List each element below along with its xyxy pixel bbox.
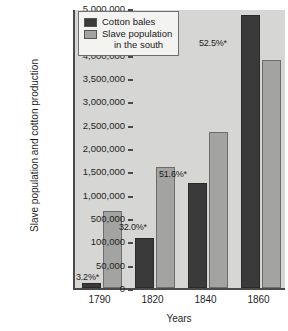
- data-label-1840: 51.6%*: [159, 169, 187, 179]
- y-axis-title: Slave population and cotton production: [29, 26, 40, 266]
- x-axis-label-1820: 1820: [126, 294, 179, 305]
- legend-label-line2: in the south: [102, 39, 172, 50]
- x-axis-title: Years: [73, 313, 285, 324]
- legend-label-slave-population: Slave population in the south: [102, 28, 172, 50]
- y-axis-tick-mark: [128, 126, 133, 128]
- y-axis-tick-label: 1,500,000: [83, 166, 125, 177]
- legend-label-cotton-bales: Cotton bales: [102, 16, 155, 27]
- y-axis-tick-mark: [128, 219, 133, 221]
- y-axis-tick-mark: [128, 196, 133, 198]
- x-axis-label-1790: 1790: [73, 294, 126, 305]
- y-axis-tick-mark: [128, 242, 133, 244]
- y-axis-tick-label: 0: [120, 283, 125, 294]
- legend: Cotton bales Slave population in the sou…: [78, 11, 179, 56]
- data-label-1790: 3.2%*: [76, 272, 99, 282]
- bar-group: [181, 10, 234, 288]
- y-axis-tick-mark: [128, 172, 133, 174]
- y-axis-tick-mark: [128, 149, 133, 151]
- y-axis-tick-mark: [128, 289, 133, 291]
- y-axis-tick-label: 50,000: [96, 260, 125, 271]
- bar-1860-cotton-bales: [241, 15, 260, 288]
- legend-swatch-icon-slave-population: [84, 30, 97, 39]
- x-axis-label-1840: 1840: [179, 294, 232, 305]
- data-label-1820: 32.0%*: [119, 222, 147, 232]
- y-axis-tick-mark: [128, 79, 133, 81]
- bar-1860-slave-population: [262, 60, 281, 288]
- bar-1820-slave-population: [156, 167, 175, 288]
- bar-group: [234, 10, 287, 288]
- bar-1840-cotton-bales: [188, 183, 207, 288]
- bar-1840-slave-population: [209, 132, 228, 288]
- legend-item-slave-population: Slave population in the south: [84, 28, 172, 50]
- y-axis-tick-label: 100,000: [91, 236, 125, 247]
- y-axis-tick-label: 2,500,000: [83, 120, 125, 131]
- y-axis-tick-mark: [128, 266, 133, 268]
- y-axis-tick-mark: [128, 102, 133, 104]
- legend-item-cotton-bales: Cotton bales: [84, 16, 172, 27]
- y-axis-tick-label: 1,000,000: [83, 190, 125, 201]
- bar-1790-cotton-bales: [82, 283, 101, 288]
- bar-1820-cotton-bales: [135, 238, 154, 288]
- data-label-1860: 52.5%*: [199, 38, 227, 48]
- y-axis-tick-label: 3,000,000: [83, 96, 125, 107]
- y-axis-tick-label: 3,500,000: [83, 73, 125, 84]
- y-axis-tick-label: 2,000,000: [83, 143, 125, 154]
- bar-chart: Slave population and cotton production 0…: [0, 0, 288, 331]
- legend-swatch-icon-cotton-bales: [84, 18, 97, 27]
- x-axis-label-1860: 1860: [232, 294, 285, 305]
- legend-label-line1: Slave population: [102, 28, 172, 39]
